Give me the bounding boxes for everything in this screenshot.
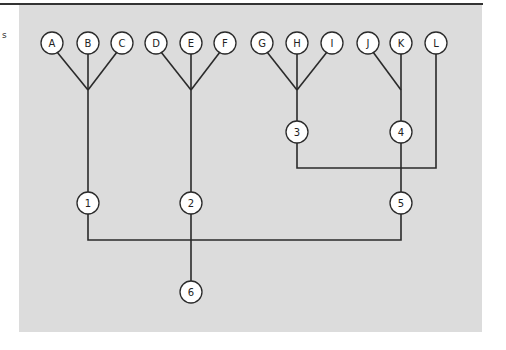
node-2: 2 bbox=[180, 192, 202, 214]
svg-text:K: K bbox=[398, 38, 405, 49]
edge-g bbox=[267, 52, 297, 90]
svg-text:I: I bbox=[331, 38, 334, 49]
node-c: C bbox=[111, 32, 133, 54]
internal-nodes: 1 2 3 4 5 6 bbox=[77, 121, 412, 303]
svg-text:F: F bbox=[222, 38, 228, 49]
svg-text:L: L bbox=[433, 38, 439, 49]
svg-text:H: H bbox=[293, 38, 301, 49]
svg-text:A: A bbox=[49, 38, 56, 49]
node-l: L bbox=[425, 32, 447, 54]
edge-f bbox=[191, 52, 220, 90]
node-b: B bbox=[77, 32, 99, 54]
tree-diagram: A B C D E F G H I J K L 1 2 3 4 5 6 bbox=[0, 0, 506, 350]
node-g: G bbox=[251, 32, 273, 54]
node-3: 3 bbox=[286, 121, 308, 143]
node-i: I bbox=[321, 32, 343, 54]
node-h: H bbox=[286, 32, 308, 54]
node-k: K bbox=[390, 32, 412, 54]
node-1: 1 bbox=[77, 192, 99, 214]
svg-text:J: J bbox=[366, 38, 370, 49]
svg-text:C: C bbox=[119, 38, 126, 49]
node-j: J bbox=[357, 32, 379, 54]
svg-text:5: 5 bbox=[398, 198, 404, 209]
node-d: D bbox=[145, 32, 167, 54]
node-4: 4 bbox=[390, 121, 412, 143]
svg-text:D: D bbox=[152, 38, 160, 49]
edge-d bbox=[161, 52, 191, 90]
svg-text:1: 1 bbox=[85, 198, 91, 209]
svg-text:G: G bbox=[258, 38, 266, 49]
edge-1-5 bbox=[88, 214, 401, 240]
leaf-nodes: A B C D E F G H I J K L bbox=[41, 32, 447, 54]
svg-text:E: E bbox=[188, 38, 194, 49]
node-5: 5 bbox=[390, 192, 412, 214]
node-6: 6 bbox=[180, 281, 202, 303]
node-e: E bbox=[180, 32, 202, 54]
edge-j bbox=[373, 52, 401, 90]
edge-c bbox=[88, 52, 117, 90]
svg-text:6: 6 bbox=[188, 287, 194, 298]
edge-a bbox=[57, 52, 88, 90]
edge-i bbox=[297, 52, 327, 90]
edge-3-l bbox=[297, 54, 436, 168]
edges bbox=[57, 52, 436, 281]
node-a: A bbox=[41, 32, 63, 54]
svg-text:3: 3 bbox=[294, 127, 300, 138]
svg-text:2: 2 bbox=[188, 198, 194, 209]
svg-text:B: B bbox=[85, 38, 92, 49]
node-f: F bbox=[214, 32, 236, 54]
svg-text:4: 4 bbox=[398, 127, 404, 138]
